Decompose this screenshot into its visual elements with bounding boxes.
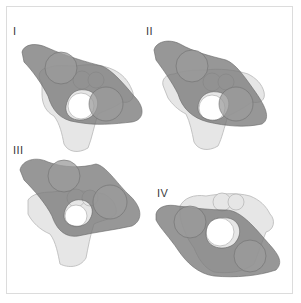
vertebra-overlay-diagram-II xyxy=(150,8,294,152)
joint-left xyxy=(174,206,206,238)
joint-right xyxy=(93,185,127,219)
vertebra-overlay-diagram-III xyxy=(6,150,150,294)
panel-IV: IV xyxy=(150,150,294,294)
joint-right xyxy=(89,87,123,121)
panel-III: III xyxy=(6,150,150,294)
vertebra-overlay-diagram-IV xyxy=(150,150,294,294)
vertebra-overlay-diagram-I xyxy=(6,8,150,152)
joint-right xyxy=(219,87,253,121)
joint-left xyxy=(45,52,77,84)
panel-II: II xyxy=(150,8,294,152)
joint-left xyxy=(48,160,80,192)
joint-left xyxy=(176,50,208,82)
joint-right xyxy=(234,240,266,272)
panel-I: I xyxy=(6,8,150,152)
